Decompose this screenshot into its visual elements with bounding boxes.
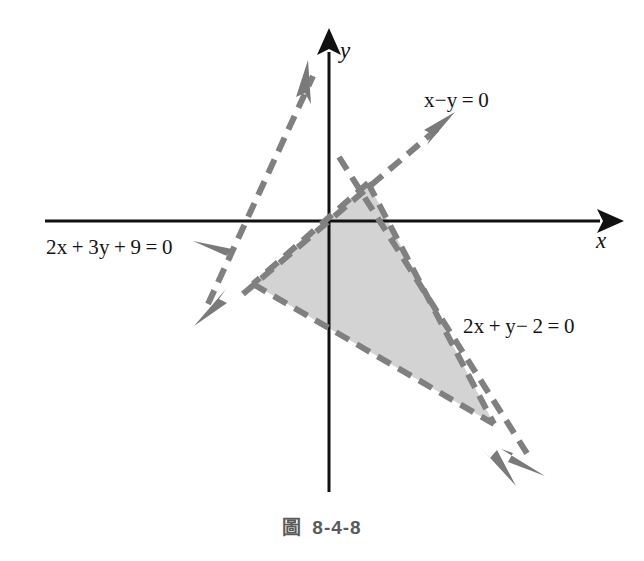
y-axis-label: y [340, 38, 350, 64]
label-line-2x-3y-9: 2x + 3y + 9 = 0 [46, 235, 173, 260]
feasible-region-fill [253, 183, 494, 424]
figure-caption: 圖8-4-8 [0, 512, 644, 539]
x-axis-label: x [596, 228, 606, 254]
caption-word: 圖 [282, 517, 302, 538]
label-line-2x-y-2: 2x + y− 2 = 0 [463, 314, 575, 339]
caption-number: 8-4-8 [312, 517, 361, 538]
coordinate-plot [0, 0, 644, 561]
label-line-x-minus-y: x−y = 0 [424, 88, 489, 113]
figure-root: x y x−y = 0 2x + 3y + 9 = 0 2x + y− 2 = … [0, 0, 644, 561]
